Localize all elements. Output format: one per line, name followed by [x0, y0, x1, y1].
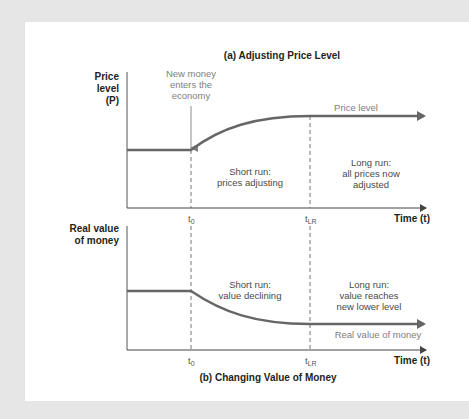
svg-text:Long run:: Long run: [351, 157, 391, 168]
real-value-label: Real value of money [335, 329, 422, 340]
svg-text:prices adjusting: prices adjusting [217, 177, 283, 188]
svg-text:economy: economy [172, 90, 211, 101]
chart-a-title: (a) Adjusting Price Level [224, 50, 341, 61]
svg-text:Long run:: Long run: [349, 279, 389, 290]
chart-a: (a) Adjusting Price Level Price level (P… [95, 50, 430, 225]
chart-svg: (a) Adjusting Price Level Price level (P… [0, 0, 469, 419]
long-run-note-a: Long run: all prices now adjusted [342, 157, 400, 190]
svg-text:Real value: Real value [70, 223, 120, 234]
chart-b: Real value of money Real value of money … [70, 223, 430, 383]
short-run-note-a: Short run: prices adjusting [217, 166, 283, 188]
price-level-curve [127, 116, 424, 150]
long-run-note-b: Long run: value reaches new lower level [337, 279, 402, 312]
chart-a-t0-tick: t0 [188, 213, 195, 225]
svg-text:Short run:: Short run: [229, 166, 271, 177]
svg-text:all prices now: all prices now [342, 168, 400, 179]
new-money-annotation: New money enters the economy [166, 68, 216, 148]
short-run-note-b: Short run: value declining [219, 279, 282, 301]
price-level-label: Price level [334, 102, 378, 113]
chart-a-ylabel: Price level (P) [95, 71, 120, 106]
svg-text:enters the: enters the [170, 79, 212, 90]
chart-b-tlr-tick: tLR [305, 355, 317, 367]
chart-a-tlr-tick: tLR [305, 213, 317, 225]
svg-text:adjusted: adjusted [353, 179, 389, 190]
svg-text:level: level [97, 83, 119, 94]
svg-text:New money: New money [166, 68, 216, 79]
svg-text:Price: Price [95, 71, 120, 82]
svg-text:of money: of money [75, 235, 120, 246]
chart-a-xlabel: Time (t) [394, 213, 430, 224]
chart-b-ylabel: Real value of money [70, 223, 120, 246]
svg-text:(P): (P) [106, 95, 119, 106]
svg-text:value declining: value declining [219, 290, 282, 301]
chart-b-t0-tick: t0 [188, 355, 195, 367]
svg-text:new lower level: new lower level [337, 301, 402, 312]
chart-b-xlabel: Time (t) [394, 355, 430, 366]
chart-b-title: (b) Changing Value of Money [199, 372, 337, 383]
svg-text:value reaches: value reaches [339, 290, 398, 301]
svg-text:Short run:: Short run: [229, 279, 271, 290]
